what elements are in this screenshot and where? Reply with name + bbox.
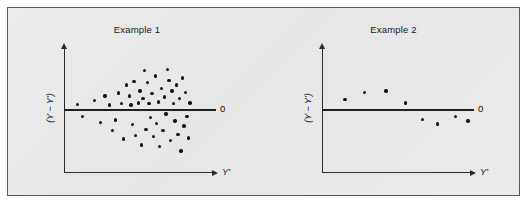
data-point [132, 80, 135, 83]
zero-label-example-2: 0 [478, 103, 483, 114]
y-axis-label-example-2: (Y − Y') [303, 76, 313, 140]
chart-panel-example-1: Example 1 0 (Y − Y') Y' [8, 8, 266, 195]
y-axis-label-example-1: (Y − Y') [45, 76, 55, 140]
data-points-example-2 [322, 49, 474, 169]
data-point [169, 139, 172, 142]
x-axis-arrow-example-2 [470, 170, 476, 176]
data-point [343, 98, 346, 101]
data-point [160, 87, 163, 90]
data-point [166, 68, 169, 71]
plot-area-example-1: 0 (Y − Y') Y' [8, 8, 266, 196]
data-point [173, 119, 176, 122]
data-point [163, 95, 166, 98]
data-point [76, 103, 79, 106]
data-point [172, 102, 175, 105]
data-point [167, 79, 170, 82]
data-point [144, 128, 147, 131]
data-point [129, 103, 132, 106]
data-point [178, 97, 181, 100]
data-point [454, 115, 457, 118]
data-point [384, 89, 387, 92]
x-axis-line-example-2 [322, 172, 470, 173]
data-point [122, 137, 125, 140]
data-point [404, 101, 407, 104]
data-point [120, 102, 123, 105]
data-point [363, 91, 366, 94]
data-points-example-1 [64, 49, 216, 169]
data-point [134, 134, 137, 137]
figure-container: Example 1 0 (Y − Y') Y' Example 2 [7, 7, 520, 196]
chart-panel-example-2: Example 2 0 (Y − Y') Y' [266, 8, 520, 195]
data-point [114, 118, 117, 121]
data-point [143, 69, 146, 72]
data-point [184, 91, 187, 94]
data-point [164, 112, 167, 115]
data-point [152, 135, 155, 138]
data-point [155, 122, 158, 125]
data-point [93, 99, 96, 102]
data-point [141, 97, 144, 100]
data-point [170, 89, 173, 92]
data-point [81, 115, 84, 118]
data-point [111, 129, 114, 132]
data-point [125, 83, 128, 86]
data-point [150, 92, 153, 95]
data-point [131, 123, 134, 126]
data-point [187, 136, 190, 139]
data-point [149, 116, 152, 119]
data-point [108, 103, 111, 106]
data-point [147, 102, 150, 105]
data-point [117, 91, 120, 94]
data-point [175, 83, 178, 86]
data-point [138, 89, 141, 92]
data-point [188, 101, 191, 104]
data-point [185, 115, 188, 118]
data-point [421, 118, 424, 121]
data-point [158, 145, 161, 148]
data-point [128, 94, 131, 97]
data-point [436, 122, 439, 125]
data-point [146, 81, 149, 84]
data-point [103, 94, 106, 97]
x-axis-line-example-1 [64, 172, 212, 173]
x-axis-label-example-2: Y' [480, 166, 488, 177]
data-point [181, 76, 184, 79]
plot-area-example-2: 0 (Y − Y') Y' [266, 8, 520, 196]
data-point [137, 101, 140, 104]
data-point [161, 129, 164, 132]
data-point [176, 133, 179, 136]
x-axis-arrow-example-1 [212, 170, 218, 176]
data-point [140, 143, 143, 146]
data-point [179, 149, 182, 152]
data-point [99, 121, 102, 124]
data-point [182, 124, 185, 127]
x-axis-label-example-1: Y' [222, 166, 230, 177]
data-point [154, 74, 157, 77]
data-point [466, 119, 469, 122]
data-point [157, 100, 160, 103]
zero-label-example-1: 0 [220, 103, 225, 114]
